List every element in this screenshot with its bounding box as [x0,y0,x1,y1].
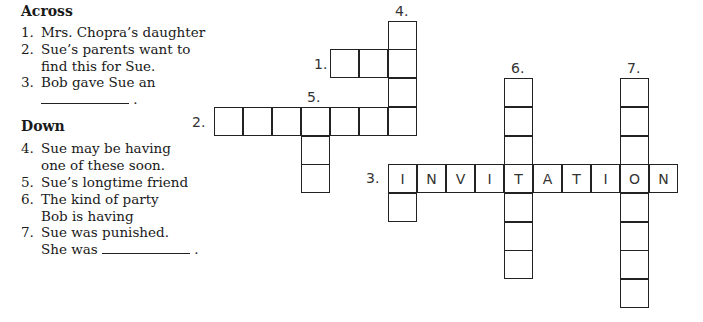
cell-6d-3[interactable] [504,136,533,165]
cell-5d-3[interactable] [301,164,330,193]
cell-3a-8[interactable]: I [591,164,620,193]
cell-3a-10[interactable]: N [649,164,678,193]
cell-3a-6[interactable]: A [533,164,562,193]
cell-6d-2[interactable] [504,107,533,136]
label-1: 1. [314,56,327,72]
label-6: 6. [511,60,524,76]
cell-7d-8[interactable] [620,279,649,308]
cell-7d-7[interactable] [620,250,649,279]
cell-2a-2[interactable] [243,107,272,136]
label-3: 3. [366,170,379,186]
label-7: 7. [627,60,640,76]
cell-6d-6[interactable] [504,222,533,251]
cell-4d-1[interactable] [388,21,417,50]
cell-1a-1[interactable] [330,49,359,78]
cell-3a-4[interactable]: I [475,164,504,193]
label-2: 2. [192,114,205,130]
cell-2a-3[interactable] [272,107,301,136]
label-5: 5. [307,89,320,105]
cell-4d-6[interactable] [388,193,417,222]
cell-2a-5[interactable] [330,107,359,136]
cell-7d-6[interactable] [620,222,649,251]
cell-6d-1[interactable] [504,78,533,107]
cell-3a-7[interactable]: T [562,164,591,193]
cell-3a-5[interactable]: T [504,164,533,193]
cell-6d-7[interactable] [504,250,533,279]
cell-2a-4[interactable] [301,107,330,136]
cell-7d-1[interactable] [620,78,649,107]
cell-3a-2[interactable]: N [417,164,446,193]
label-4: 4. [395,3,408,19]
crossword-grid: 4. 1. 5. 2. 3. 6. 7. I N V I T A T I O N [0,0,703,322]
cell-1a-2[interactable] [359,49,388,78]
cell-5d-2[interactable] [301,136,330,165]
cell-6d-5[interactable] [504,193,533,222]
cell-3a-3[interactable]: V [446,164,475,193]
cell-3a-1[interactable]: I [388,164,417,193]
cell-2a-6[interactable] [359,107,388,136]
cell-4d-3[interactable] [388,78,417,107]
cell-7d-2[interactable] [620,107,649,136]
cell-4d-2[interactable] [388,49,417,78]
cell-7d-5[interactable] [620,193,649,222]
cell-4d-4[interactable] [388,107,417,136]
cell-7d-3[interactable] [620,136,649,165]
cell-2a-1[interactable] [214,107,243,136]
cell-3a-9[interactable]: O [620,164,649,193]
